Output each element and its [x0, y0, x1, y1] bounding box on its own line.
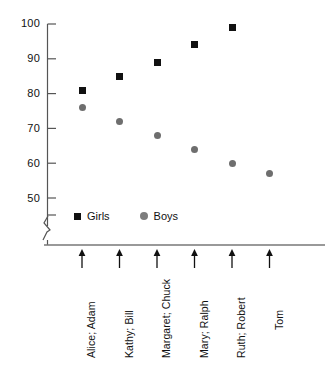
- chart-legend: Girls Boys: [74, 210, 178, 222]
- plot-area: 100 90 80 70 60 50 Girls Boys: [0, 0, 335, 367]
- legend-label-boys: Boys: [154, 210, 178, 222]
- x-tick-label-2: Margaret; Chuck: [161, 279, 172, 358]
- data-point-boys-3: [191, 146, 198, 153]
- data-point-boys-2: [154, 132, 161, 139]
- x-tick-arrow-4: [229, 249, 236, 268]
- y-tick-label-90: 90: [14, 53, 40, 64]
- legend-label-girls: Girls: [87, 210, 110, 222]
- data-point-girls-0: [79, 87, 86, 94]
- legend-item-boys: Boys: [140, 210, 178, 222]
- x-tick-label-4: Ruth; Robert: [236, 297, 247, 358]
- x-tick-arrow-3: [191, 249, 198, 268]
- axis-break-icon: [43, 216, 50, 240]
- scatter-chart: 100 90 80 70 60 50 Girls Boys: [0, 0, 335, 367]
- data-point-girls-1: [116, 73, 123, 80]
- data-point-boys-4: [229, 160, 236, 167]
- y-tick-label-50: 50: [14, 193, 40, 204]
- x-tick-arrow-1: [116, 249, 123, 268]
- square-marker-icon: [74, 213, 81, 220]
- x-tick-label-5: Tom: [274, 310, 285, 330]
- x-tick-label-1: Kathy; Bill: [124, 310, 135, 358]
- y-tick-label-70: 70: [14, 123, 40, 134]
- data-point-girls-4: [229, 24, 236, 31]
- x-tick-arrow-5: [266, 249, 273, 268]
- legend-item-girls: Girls: [74, 210, 110, 222]
- data-point-boys-0: [79, 104, 86, 111]
- data-point-girls-3: [191, 41, 198, 48]
- x-tick-arrow-2: [154, 249, 161, 268]
- y-tick-label-60: 60: [14, 158, 40, 169]
- data-point-boys-1: [116, 118, 123, 125]
- circle-marker-icon: [140, 212, 148, 220]
- x-tick-label-0: Alice; Adam: [86, 301, 97, 358]
- x-tick-label-3: Mary; Ralph: [199, 300, 210, 358]
- x-tick-arrow-0: [79, 249, 86, 268]
- y-tick-label-80: 80: [14, 88, 40, 99]
- y-tick-label-100: 100: [14, 18, 40, 29]
- data-point-girls-2: [154, 59, 161, 66]
